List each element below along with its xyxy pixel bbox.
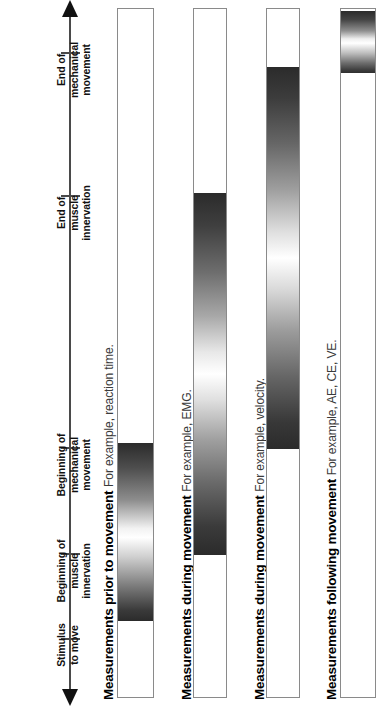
bar-band-during-velocity [267,67,299,449]
caption-title: Measurements following movement [324,479,339,700]
caption-title: Measurements during movement [179,495,194,700]
caption-example: For example, reaction time. [102,344,116,487]
bar-band-prior [118,443,153,621]
caption-title: Measurements during movement [252,495,267,700]
axis-label-end-muscle-innervation: End of muscle innervation [55,153,93,273]
axis-label-beginning-mechanical-movement: Beginning of mechanical movement [55,405,93,525]
caption-example: For example, velocity. [253,378,267,492]
bar-band-following [341,11,375,73]
caption-prior-to-movement: Measurements prior to movement For examp… [102,344,116,700]
axis-label-end-mechanical-movement: End of mechanical movement [55,10,93,130]
bar-frame-prior [117,8,154,698]
caption-example: For example, AE, CE, VE. [325,340,339,476]
bar-band-during-emg [194,193,226,555]
axis-label-stimulus-to-move: Stimulus to move [55,590,80,700]
bar-frame-following [340,8,376,698]
bar-frame-during-emg [193,8,227,698]
caption-during-movement-velocity: Measurements during movement For example… [253,378,267,700]
bar-frame-during-velocity [266,8,300,698]
figure-canvas: End of mechanical movement End of muscle… [0,0,379,706]
caption-following-movement: Measurements following movement For exam… [325,340,339,700]
caption-during-movement-emg: Measurements during movement For example… [180,389,194,700]
caption-title: Measurements prior to movement [101,491,116,700]
caption-example: For example, EMG. [180,389,194,491]
